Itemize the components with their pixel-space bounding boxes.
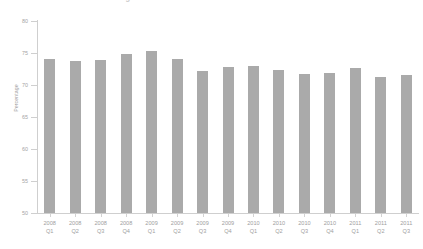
y-axis-tick-label: 60 bbox=[4, 146, 28, 152]
x-axis-tick bbox=[228, 214, 229, 217]
x-axis-tick bbox=[406, 214, 407, 217]
bar bbox=[299, 74, 310, 213]
x-axis-tick bbox=[75, 214, 76, 217]
y-axis-tick-label: 70 bbox=[4, 82, 28, 88]
y-axis-tick-label: 65 bbox=[4, 114, 28, 120]
x-axis-tick bbox=[253, 214, 254, 217]
x-axis-tick bbox=[304, 214, 305, 217]
y-axis-tick-label: 75 bbox=[4, 50, 28, 56]
bar-chart: Percentage of Households with Internet A… bbox=[0, 0, 423, 249]
x-axis-tick-label: 2011 Q3 bbox=[386, 220, 423, 235]
bar bbox=[375, 77, 386, 213]
x-axis-tick bbox=[381, 214, 382, 217]
bar bbox=[401, 75, 412, 213]
x-axis-tick bbox=[203, 214, 204, 217]
x-axis-tick bbox=[279, 214, 280, 217]
y-axis-tick bbox=[31, 213, 38, 214]
bar bbox=[223, 67, 234, 213]
x-axis-tick bbox=[101, 214, 102, 217]
x-axis-tick bbox=[330, 214, 331, 217]
bar bbox=[70, 61, 81, 213]
bar bbox=[324, 73, 335, 213]
x-axis-tick bbox=[177, 214, 178, 217]
bar bbox=[172, 59, 183, 213]
y-axis-tick-label: 55 bbox=[4, 178, 28, 184]
plot-area bbox=[37, 21, 419, 213]
bar bbox=[248, 66, 259, 213]
y-axis-tick-label: 50 bbox=[4, 210, 28, 216]
x-axis-tick bbox=[50, 214, 51, 217]
bar bbox=[197, 71, 208, 213]
x-axis-tick bbox=[355, 214, 356, 217]
bar bbox=[273, 70, 284, 213]
chart-title: Percentage of Households with Internet A… bbox=[22, 0, 412, 3]
x-axis-tick bbox=[126, 214, 127, 217]
bar bbox=[44, 59, 55, 213]
y-axis-tick-label: 80 bbox=[4, 18, 28, 24]
bar bbox=[350, 68, 361, 213]
bar bbox=[121, 54, 132, 213]
bar bbox=[146, 51, 157, 213]
bar bbox=[95, 60, 106, 213]
x-axis-tick bbox=[152, 214, 153, 217]
